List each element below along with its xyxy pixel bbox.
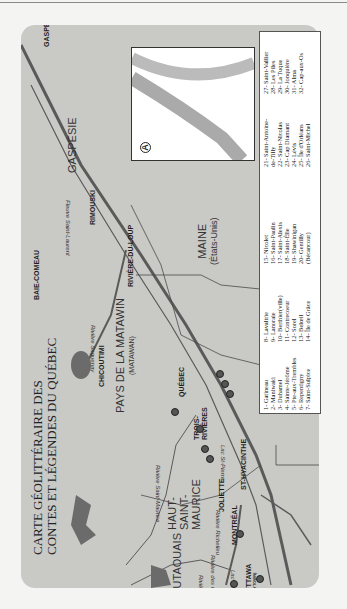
legend-item: 23- Cap Diamant [283,119,290,167]
marker-4 [236,530,244,538]
city-montreal: MONTRÉAL [231,505,238,545]
region-maine-name: MAINE [196,217,208,265]
marker-22 [221,380,229,388]
legend-item: 21- Saint-Antoine- [262,119,269,167]
legend-item: 11- Contrecoeur [283,295,290,342]
legend-item: 22- Saint-Nicolas [276,119,283,167]
legend-col-4: 21- Saint-Antoine- de-Tilly 22- Saint-Ni… [262,119,311,167]
city-st-hyacinthe: ST-HYACINTHE [240,439,247,490]
legend-col-3: 15- Nicolet 16- Saint-Paulin 17- Saint-A… [262,222,311,264]
legend-col-1: 1- Gatineau 2- Maniwaki 3- Duhamel 4- Sa… [262,358,311,410]
lake-st-pierre: Lac St-Pierre [220,445,226,480]
legend-item: 1- Gatineau [262,358,269,410]
legend-item: 2- Maniwaki [269,358,276,410]
inset-marker-a: A [140,142,151,153]
legend-item: 27- Saint-Vallier [262,52,269,94]
marker-1 [256,575,264,583]
city-baie-comeau: BAIE-COMEAU [33,250,40,300]
marker-25 [171,408,179,416]
legend-item: 12- Sorel [290,295,297,342]
legend-item: 16- Saint-Paulin [269,222,276,264]
legend-item: 7- Saint-Sulpice [304,358,311,410]
map-title: CARTE GÉOLITTÉRAIRE DES CONTES ET LÉGEND… [31,338,59,555]
legend-item: 6- Repentigny [297,358,304,410]
city-riviere-du-loup: RIVIÈRE-DU-LOUP [127,225,134,287]
region-gaspesie: GASPÉSIE [66,117,78,173]
marker-19 [196,425,204,433]
region-haut-saint-maurice: HAUT-SAINT-MAURICE [166,470,202,530]
region-matawin-name: PAYS DE LA MATAWIN [114,298,126,413]
legend-item: 9- Lanoraie [269,295,276,342]
inset-map: A [131,47,255,161]
city-rimouski: RIMOUSKI [89,190,96,225]
region-maine-country: (États-Unis) [208,217,220,265]
city-gaspe: GASPÉ [43,25,50,47]
legend-col-2: 8- Lavaltrie 9- Lanoraie 10- Berthier(vi… [262,295,311,342]
marker-24 [226,390,234,398]
legend-item: 20- Gentilly [297,222,304,264]
region-matawin-alt: (MATAWAN) [126,298,138,413]
legend-item: 28- Les Piles [269,52,276,94]
river-richelieu: Rivière Richelieu [215,510,221,555]
marker-18 [206,455,214,463]
region-maine: MAINE (États-Unis) [196,217,220,265]
marker-21 [216,370,224,378]
legend-item: de-Tilly [269,119,276,167]
map-title-line-2: CONTES ET LÉGENDES DU QUÉBEC [45,338,59,555]
legend-item: 8- Lavaltrie [262,295,269,342]
legend-item: 3- Duhamel [276,358,283,410]
region-outaouais: OUTAOUAIS [171,533,183,588]
inset-rivers [132,48,254,160]
legend-item: 24- Lévis [290,119,297,167]
legend-item: 19- Shawinigan [290,222,297,264]
city-quebec: QUÉBEC [178,367,185,397]
map-title-line-1: CARTE GÉOLITTÉRAIRE DES [31,338,45,555]
legend-item: 17- Saint-Alexis [276,222,283,264]
city-chicoutimi: CHICOUTIMI [98,345,105,387]
legend-item: 5- Pte-aux-Trembles [290,358,297,410]
legend-item: 32- Cap-aux-Os [297,52,304,94]
legend-item: 15- Nicolet [262,222,269,264]
river-saguenay: Rivière Saguenay [90,325,96,372]
region-matawin: PAYS DE LA MATAWIN (MATAWAN) [114,298,138,413]
legend-item: 14- Île de Grâce [304,295,311,342]
river-gatineau: Rivière de la Gatineau [198,575,204,588]
legend-col-5: 27- Saint-Vallier 28- Les Piles 29- La T… [262,52,304,94]
page-edge-line [0,2,347,3]
marker-16 [201,445,209,453]
legend-item: 13- Belœil [297,295,304,342]
legend-item: 26- Saint-Michel [304,119,311,167]
legend-item: 10- Berthier(ville) [276,295,283,342]
river-st-maurice: Rivière Saint-Maurice [155,465,161,522]
legend-item: 29- La Tuque [276,52,283,94]
legend-item: 18- Saint-Élie [283,222,290,264]
marker-2 [230,580,238,588]
legend-item: 4- Sainte-Jérôme [283,358,290,410]
legend-item: (Bécancour) [304,222,311,264]
legend-item: 25- Île d'Orléans [297,119,304,167]
legend-item: 31- Alma [290,52,297,94]
legend: 1- Gatineau 2- Maniwaki 3- Duhamel 4- Sa… [259,31,321,414]
legend-item: 30- Jonquière [283,52,290,94]
river-outaouais: Rivière des Outaouais [210,555,216,588]
city-joliette: JOLIETTE [218,479,225,512]
river-st-laurent: Fleuve Saint-Laurent [65,200,71,256]
